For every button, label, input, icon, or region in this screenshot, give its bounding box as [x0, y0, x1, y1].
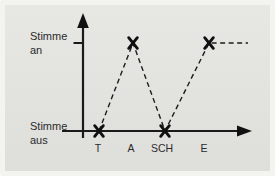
voicing-dashed-line: [99, 43, 248, 131]
scanned-voicing-diagram: Stimme an Stimme aus TASCHE: [0, 0, 275, 176]
x-axis-label-sch: SCH: [151, 142, 173, 154]
x-axis-label-a: A: [127, 142, 134, 154]
voicing-curve-group: [99, 43, 248, 131]
y-tick-label-stimme-an-line1: Stimme: [30, 30, 67, 42]
arrow-right-icon: [237, 126, 252, 137]
x-axis-label-e: E: [200, 142, 207, 154]
voicing-chart: Stimme an Stimme aus TASCHE: [0, 0, 275, 176]
x-axis-label-t: T: [95, 142, 102, 154]
data-markers-group: [95, 38, 214, 137]
y-tick-label-stimme-aus-line2: aus: [30, 134, 48, 146]
y-tick-label-stimme-an-line2: an: [30, 44, 42, 56]
x-axis: [62, 126, 252, 137]
y-tick-label-stimme-aus-line1: Stimme: [30, 120, 67, 132]
x-axis-labels-group: TASCHE: [95, 142, 208, 154]
y-axis: [74, 13, 89, 138]
arrow-up-icon: [77, 13, 89, 28]
